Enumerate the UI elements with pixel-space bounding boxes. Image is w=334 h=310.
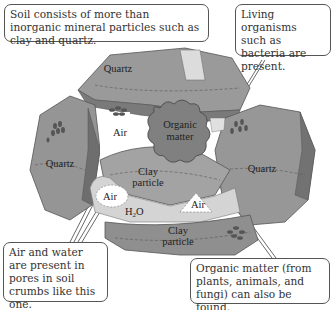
label-air-center: Air — [113, 127, 128, 138]
label-air-left: Air — [103, 191, 118, 202]
callout-air-water: Air and water are present in pores in so… — [3, 242, 108, 302]
callout-living-organisms: Living organisms such as bacteria are pr… — [235, 4, 331, 56]
label-clay-middle-line1: Clay — [138, 166, 159, 177]
label-organic-line1: Organic — [163, 119, 197, 130]
label-clay-middle-line2: particle — [132, 177, 164, 188]
label-clay-bottom-line2: particle — [162, 236, 194, 247]
label-air-right: Air — [191, 199, 206, 210]
callout-soil-composition: Soil consists of more than inorganic min… — [4, 4, 209, 42]
label-organic-line2: matter — [167, 131, 194, 142]
label-quartz-right: Quartz — [248, 163, 277, 174]
label-quartz-top: Quartz — [104, 63, 133, 74]
label-quartz-left: Quartz — [46, 158, 75, 169]
label-clay-bottom-line1: Clay — [168, 225, 189, 236]
callout-organic-matter: Organic matter (from plants, animals, an… — [190, 258, 330, 304]
